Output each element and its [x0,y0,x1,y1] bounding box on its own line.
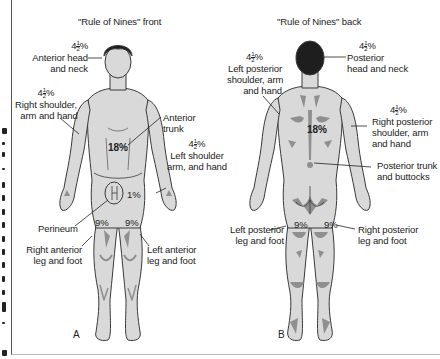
back-right-arm-label: 412% Right posterior shoulder, arm and h… [372,104,432,149]
front-left-leg-label: Left anterior leg and foot [147,244,196,266]
front-title: "Rule of Nines" front [78,16,161,27]
front-head-label: 412% Anterior head and neck [28,40,88,74]
front-right-leg-label: Right anterior leg and foot [22,244,82,266]
back-right-leg-value: 9% [324,219,338,230]
front-right-arm-label: 412% Right shoulder, arm and hand [14,87,78,121]
front-trunk-value: 18% [108,142,128,153]
back-left-leg-value: 9% [294,219,308,230]
back-trunk-value: 18% [307,124,327,135]
front-left-arm-label: 412% Left shoulder arm, and hand [165,138,229,172]
panel-letter-a: A [73,329,80,340]
perineum-label: Perineum [38,223,78,234]
front-left-leg-value: 9% [125,217,139,228]
front-right-leg-value: 9% [95,217,109,228]
back-left-leg-label: Left posterior leg and foot [222,224,284,246]
back-trunk-label: Posterior trunk and buttocks [377,160,437,182]
back-title: "Rule of Nines" back [277,16,361,27]
back-left-arm-label: 412% Left posterior shoulder, arm and ha… [227,51,282,96]
back-right-leg-label: Right posterior leg and foot [358,224,418,246]
back-head-label: 412% Posterior head and neck [347,40,408,74]
panel-letter-b: B [278,329,285,340]
perineum-value: 1% [127,189,141,200]
front-trunk-label: Anterior trunk [163,112,195,134]
